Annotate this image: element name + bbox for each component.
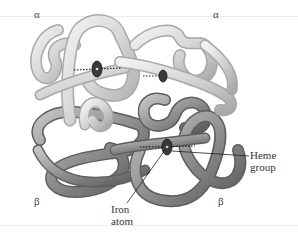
heme-label-line2: group <box>250 161 276 173</box>
hemoglobin-figure: α α β β Heme group Iron atom <box>0 0 298 233</box>
iron-atom-icon <box>96 68 99 71</box>
alpha-left-label: α <box>34 8 40 20</box>
protein-structure-illustration <box>0 0 298 233</box>
beta-right-label: β <box>218 195 224 207</box>
alpha-right-label: α <box>213 8 219 20</box>
iron-label-line2: atom <box>111 215 133 227</box>
iron-label-line1: Iron <box>111 203 133 215</box>
alpha-subunit-right <box>120 31 233 111</box>
heme-label-line1: Heme <box>250 149 276 161</box>
heme-group-label: Heme group <box>250 149 276 173</box>
iron-atom-label: Iron atom <box>111 203 133 227</box>
beta-left-label: β <box>34 195 40 207</box>
